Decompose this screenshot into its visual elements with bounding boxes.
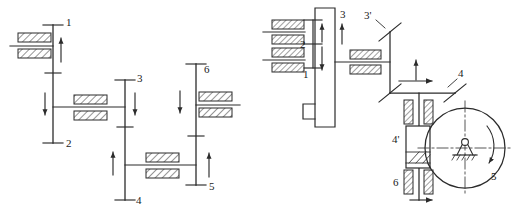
- diagram-canvas: 1 2 3 4 5 6 1 2 3 3' 4 4' 5 6: [0, 0, 520, 215]
- bevel-gear-3prime: [376, 20, 401, 102]
- label-left-3: 3: [137, 72, 143, 84]
- right-figure: [263, 8, 512, 200]
- label-right-2: 2: [300, 38, 306, 50]
- gear-mesh-r-upper: [263, 20, 305, 44]
- label-right-5: 5: [491, 170, 497, 182]
- gear-mesh-3: [125, 153, 196, 178]
- left-figure: [10, 25, 240, 200]
- friction-roller-4prime: [406, 126, 430, 168]
- fixed-pivot-support: [452, 139, 477, 160]
- right-figure-labels: 1 2 3 3' 4 4' 5 6: [300, 8, 497, 188]
- gear-mesh-r-lower: [263, 48, 305, 72]
- rotation-arrow: [487, 126, 494, 163]
- kinematic-diagram-svg: 1 2 3 4 5 6 1 2 3 3' 4 4' 5 6: [0, 0, 520, 215]
- shaft-5-6: [186, 64, 206, 185]
- label-left-1: 1: [66, 16, 72, 28]
- gear-mesh-2: [53, 95, 125, 120]
- gear-mesh-r-output: [335, 50, 390, 74]
- bevel-output-shaft-4: [390, 79, 466, 102]
- label-right-6: 6: [393, 176, 399, 188]
- gear-mesh-1: [10, 33, 53, 58]
- label-left-2: 2: [66, 137, 72, 149]
- label-left-5: 5: [209, 180, 215, 192]
- shaft-1-2: [43, 25, 63, 143]
- label-left-6: 6: [204, 63, 210, 75]
- label-right-4: 4: [458, 67, 464, 79]
- label-right-3: 3: [340, 8, 346, 20]
- label-right-1: 1: [303, 68, 309, 80]
- gear-mesh-4: [196, 92, 240, 117]
- shaft-3-4: [115, 80, 135, 200]
- label-left-4: 4: [136, 194, 142, 206]
- block-inner-shaft: [304, 20, 322, 68]
- label-right-3p: 3': [364, 9, 372, 21]
- label-right-4p: 4': [392, 133, 400, 145]
